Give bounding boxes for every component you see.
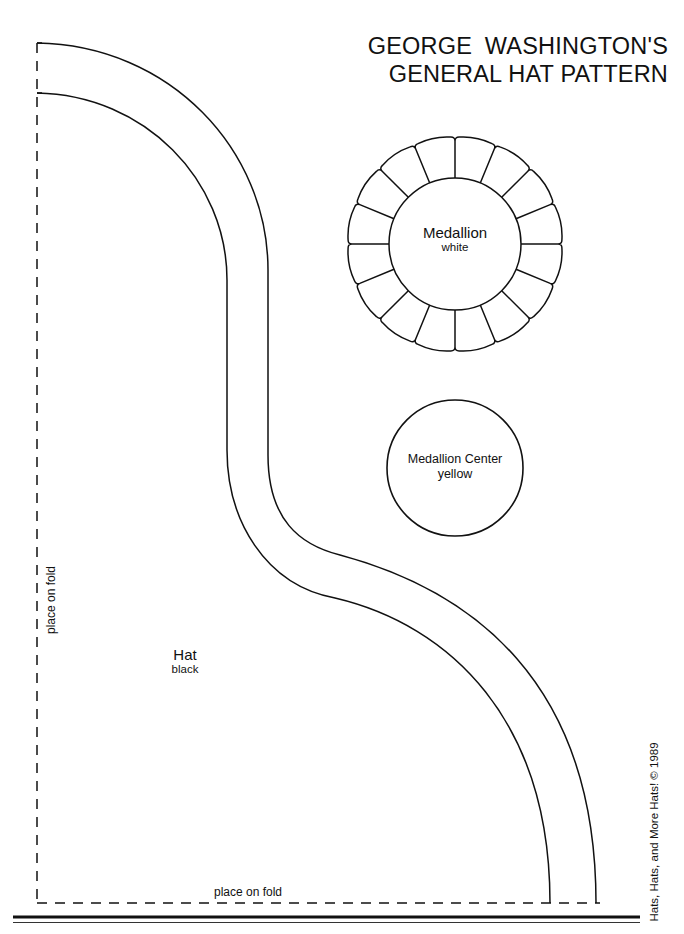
pattern-drawing <box>0 0 684 934</box>
medallion-center-name: Medallion Center <box>408 452 503 467</box>
hat-label: Hat black <box>172 646 199 675</box>
bottom-fold-label: place on fold <box>214 885 282 899</box>
hat-outer-edge <box>37 43 596 903</box>
medallion-center-label: Medallion Center yellow <box>408 452 503 482</box>
medallion-center-color: yellow <box>408 467 503 482</box>
copyright-notice: Hats, Hats, and More Hats! © 1989 <box>648 742 660 921</box>
medallion-color: white <box>423 241 487 253</box>
medallion-label: Medallion white <box>423 224 487 253</box>
hat-name: Hat <box>172 646 199 663</box>
hat-color: black <box>172 663 199 675</box>
hat-inner-edge <box>37 93 550 903</box>
left-fold-label: place on fold <box>44 566 58 634</box>
medallion-name: Medallion <box>423 224 487 241</box>
